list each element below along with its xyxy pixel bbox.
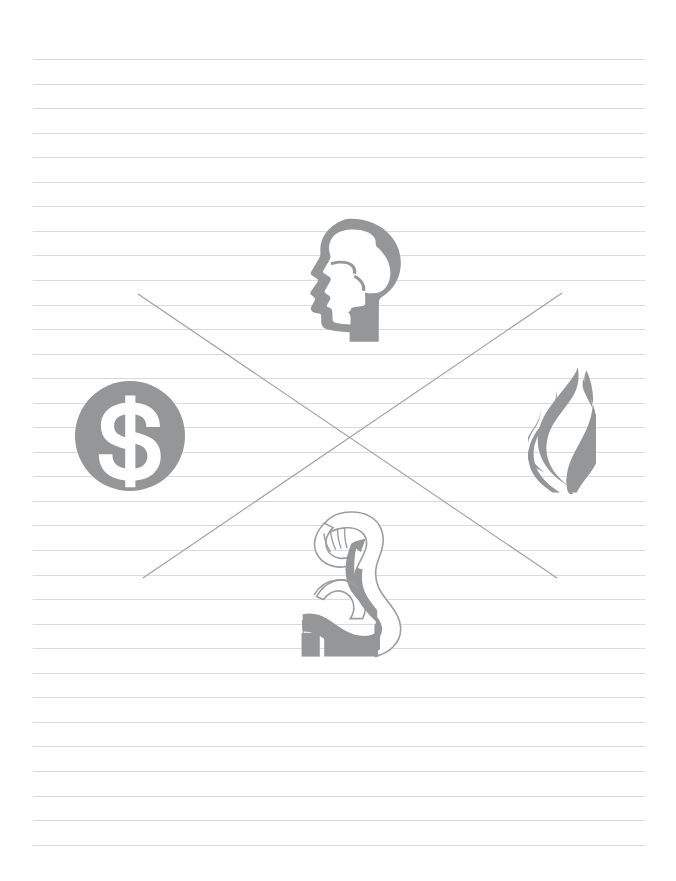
brain-head-icon (292, 218, 402, 342)
rule-line (33, 697, 645, 698)
rule-line (33, 354, 645, 355)
rule-line (33, 157, 645, 158)
rule-line (33, 722, 645, 723)
notebook-page (0, 0, 676, 881)
rule-line (33, 59, 645, 60)
rule-line (33, 206, 645, 207)
rule-line (33, 133, 645, 134)
rule-line (33, 820, 645, 821)
flexed-bicep-icon (298, 510, 402, 658)
rule-line (33, 845, 645, 846)
rule-line (33, 771, 645, 772)
flame-icon (528, 367, 596, 494)
rule-line (33, 108, 645, 109)
rule-line (33, 501, 645, 502)
rule-line (33, 84, 645, 85)
rule-line (33, 796, 645, 797)
rule-line (33, 746, 645, 747)
rule-line (33, 673, 645, 674)
dollar-coin-icon (75, 381, 185, 491)
rule-line (33, 182, 645, 183)
